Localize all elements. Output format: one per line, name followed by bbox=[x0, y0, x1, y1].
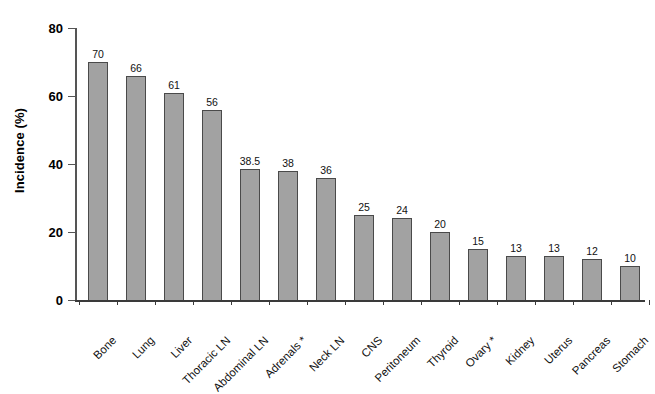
x-tick-mark bbox=[79, 300, 80, 305]
bar-value-label: 25 bbox=[358, 201, 370, 213]
y-tick-mark bbox=[68, 96, 75, 97]
x-tick-label: Lung bbox=[130, 334, 157, 361]
bar-value-label: 12 bbox=[586, 245, 598, 257]
x-tick-mark bbox=[193, 300, 194, 305]
x-tick-mark bbox=[497, 300, 498, 305]
bar-value-label: 38.5 bbox=[240, 155, 260, 167]
bar: 20 bbox=[430, 232, 450, 300]
x-tick-mark bbox=[611, 300, 612, 305]
bar: 66 bbox=[126, 76, 146, 300]
x-tick-label: Uterus bbox=[542, 334, 574, 366]
bar-value-label: 36 bbox=[320, 164, 332, 176]
y-tick-label: 0 bbox=[25, 293, 63, 308]
x-tick-label: Thyroid bbox=[425, 334, 461, 370]
bar-value-label: 13 bbox=[548, 242, 560, 254]
bar: 38.5 bbox=[240, 169, 260, 300]
x-tick-label: Neck LN bbox=[307, 334, 347, 374]
x-axis-line bbox=[75, 300, 645, 302]
bar-value-label: 66 bbox=[130, 62, 142, 74]
bar: 24 bbox=[392, 218, 412, 300]
bar-value-label: 15 bbox=[472, 235, 484, 247]
x-tick-mark bbox=[535, 300, 536, 305]
bar-value-label: 24 bbox=[396, 204, 408, 216]
y-tick-label: 60 bbox=[25, 89, 63, 104]
x-tick-label: Liver bbox=[168, 334, 194, 360]
y-tick-mark bbox=[68, 300, 75, 301]
x-tick-mark bbox=[649, 300, 650, 305]
bar: 13 bbox=[506, 256, 526, 300]
x-tick-label: Pancreas bbox=[570, 334, 613, 377]
y-axis-title: Incidence (%) bbox=[0, 0, 40, 300]
bar-value-label: 13 bbox=[510, 242, 522, 254]
y-tick-label: 20 bbox=[25, 225, 63, 240]
y-tick-mark bbox=[68, 232, 75, 233]
y-tick-label: 40 bbox=[25, 157, 63, 172]
y-tick-label: 80 bbox=[25, 21, 63, 36]
x-tick-mark bbox=[421, 300, 422, 305]
x-tick-mark bbox=[383, 300, 384, 305]
bar: 12 bbox=[582, 259, 602, 300]
x-tick-label: Ovary * bbox=[463, 334, 499, 370]
bar: 61 bbox=[164, 93, 184, 300]
bar-value-label: 56 bbox=[206, 96, 218, 108]
y-tick-mark bbox=[68, 164, 75, 165]
bar: 36 bbox=[316, 178, 336, 300]
x-tick-mark bbox=[345, 300, 346, 305]
bar: 70 bbox=[88, 62, 108, 300]
x-tick-label: Kidney bbox=[503, 334, 536, 367]
x-tick-mark bbox=[269, 300, 270, 305]
bar: 13 bbox=[544, 256, 564, 300]
y-tick-mark bbox=[68, 28, 75, 29]
bar: 10 bbox=[620, 266, 640, 300]
x-tick-label: CNS bbox=[359, 334, 385, 360]
x-tick-mark bbox=[573, 300, 574, 305]
bar: 38 bbox=[278, 171, 298, 300]
y-axis-title-text: Incidence (%) bbox=[13, 107, 28, 192]
bar-value-label: 10 bbox=[624, 252, 636, 264]
bar-value-label: 38 bbox=[282, 157, 294, 169]
x-tick-label: Stomach bbox=[610, 334, 651, 375]
x-tick-mark bbox=[231, 300, 232, 305]
y-axis-line bbox=[75, 28, 77, 300]
x-tick-mark bbox=[307, 300, 308, 305]
bar-value-label: 70 bbox=[92, 48, 104, 60]
bar: 56 bbox=[202, 110, 222, 300]
x-tick-label: Bone bbox=[91, 334, 118, 361]
bar: 15 bbox=[468, 249, 488, 300]
bar-value-label: 61 bbox=[168, 79, 180, 91]
x-tick-mark bbox=[155, 300, 156, 305]
x-tick-mark bbox=[459, 300, 460, 305]
bar: 25 bbox=[354, 215, 374, 300]
x-tick-mark bbox=[117, 300, 118, 305]
bar-value-label: 20 bbox=[434, 218, 446, 230]
plot-area: 020406080 7066615638.5383625242015131312… bbox=[75, 28, 645, 300]
